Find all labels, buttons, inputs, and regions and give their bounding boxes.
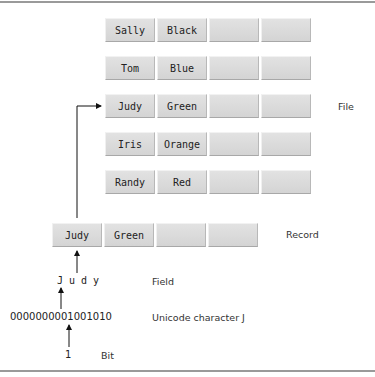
connector-arrows — [0, 0, 375, 377]
record-to-file-arrow-icon — [77, 106, 101, 218]
